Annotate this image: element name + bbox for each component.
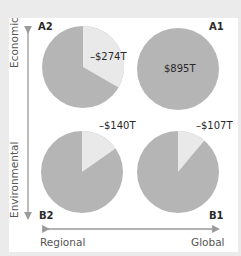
pie-b1 <box>137 131 219 213</box>
pie-value-b1: –$107T <box>196 121 233 131</box>
pie-id-a1: A1 <box>209 22 224 32</box>
pie-id-b2: B2 <box>39 211 54 221</box>
pie-value-a2: –$274T <box>90 52 127 62</box>
pie-value-a1: $895T <box>164 64 196 74</box>
axis-label-regional: Regional <box>40 237 85 248</box>
pie-a2 <box>42 26 124 108</box>
axis-label-global: Global <box>191 237 225 248</box>
pie-b2 <box>41 131 123 213</box>
axis-label-environmental: Environmental <box>9 142 20 218</box>
pie-value-b2: –$140T <box>99 121 136 131</box>
axis-label-economic: Economic <box>9 17 20 68</box>
pie-id-a2: A2 <box>38 22 53 32</box>
pie-id-b1: B1 <box>209 211 224 221</box>
